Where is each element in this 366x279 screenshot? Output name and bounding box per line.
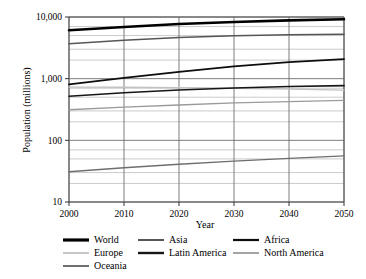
y-tick-label: 10,000 <box>36 12 62 22</box>
x-tick-label: 2010 <box>115 209 134 219</box>
x-tick-label: 2040 <box>280 209 299 219</box>
legend-label-europe: Europe <box>94 247 123 258</box>
x-axis-title: Year <box>196 219 215 230</box>
legend-label-oceania: Oceania <box>94 260 127 271</box>
y-axis-title: Population (millions) <box>21 67 33 152</box>
x-tick-label: 2000 <box>60 209 79 219</box>
x-tick-label: 2030 <box>225 209 244 219</box>
x-tick-label: 2020 <box>170 209 189 219</box>
legend-label-africa: Africa <box>264 234 290 245</box>
x-tick-label: 2050 <box>335 209 354 219</box>
population-line-chart: 200020102020203020402050 101001,00010,00… <box>0 0 366 279</box>
y-tick-label: 100 <box>48 136 63 146</box>
legend-label-asia: Asia <box>169 234 188 245</box>
y-tick-label: 10 <box>53 197 63 207</box>
legend-label-world: World <box>94 234 119 245</box>
y-tick-label: 1,000 <box>41 74 63 84</box>
legend-label-latin-america: Latin America <box>169 247 227 258</box>
population-projection-figure: 200020102020203020402050 101001,00010,00… <box>0 0 366 279</box>
legend-label-north-america: North America <box>264 247 324 258</box>
